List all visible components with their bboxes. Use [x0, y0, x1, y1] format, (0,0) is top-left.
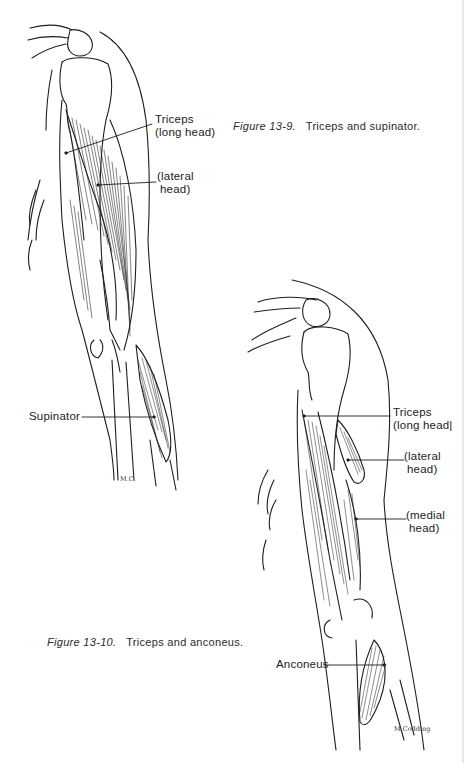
label-line1: (medial — [406, 509, 445, 522]
label-line1: (lateral — [404, 450, 441, 463]
label-lateral-head-fig9: (lateral head) — [157, 170, 194, 196]
figure-number: Figure 13-9. — [233, 120, 296, 132]
figure-number: Figure 13-10. — [47, 636, 116, 648]
label-medial-head-fig10: (medial head) — [406, 509, 445, 535]
label-line2: head) — [157, 183, 194, 196]
label-line2: head) — [406, 522, 445, 535]
figure-13-9-leaders — [65, 124, 156, 418]
label-line1: (lateral — [157, 170, 194, 183]
label-line2: head) — [404, 463, 441, 476]
caption-figure-13-9: Figure 13-9. Triceps and supinator. — [233, 120, 420, 132]
label-triceps-long-head-fig10: Triceps (long head| — [393, 406, 453, 432]
label-lateral-head-fig10: (lateral head) — [404, 450, 441, 476]
label-triceps-long-head-fig9: Triceps (long head) — [155, 113, 215, 139]
anatomical-illustrations — [0, 0, 464, 763]
caption-text: Triceps and supinator. — [306, 120, 420, 132]
figure-13-10-drawing — [248, 280, 424, 750]
label-supinator: Supinator — [29, 410, 80, 423]
artist-signature-fig10: M.Codding — [394, 725, 430, 733]
caption-text: Triceps and anconeus. — [126, 636, 243, 648]
artist-signature-fig9: M.C. — [120, 475, 136, 483]
label-line1: Triceps — [155, 113, 215, 126]
label-line2: (long head| — [393, 419, 453, 432]
textbook-page: Triceps (long head) (lateral head) Supin… — [0, 0, 464, 763]
label-line2: (long head) — [155, 126, 215, 139]
label-line1: Triceps — [393, 406, 453, 419]
label-anconeus: Anconeus — [276, 658, 329, 671]
caption-figure-13-10: Figure 13-10. Triceps and anconeus. — [47, 636, 243, 648]
